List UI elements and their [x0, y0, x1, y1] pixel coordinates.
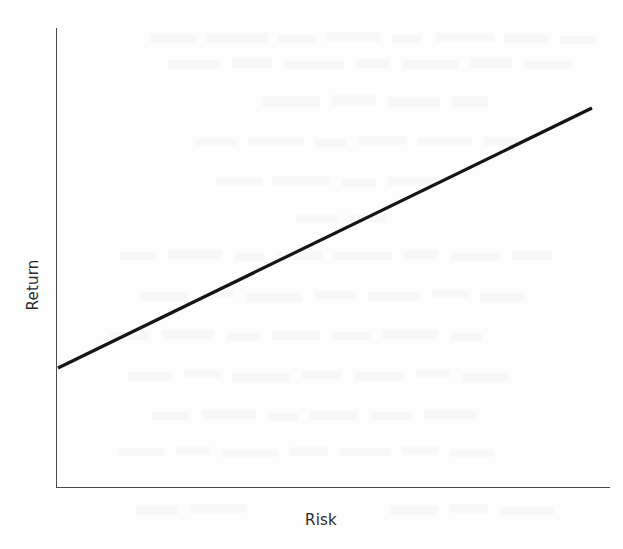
risk-return-chart: Return Risk	[0, 0, 623, 549]
data-series-group	[58, 108, 592, 368]
plot-area: Return Risk	[0, 0, 623, 549]
y-axis-label: Return	[24, 260, 42, 311]
axes-group	[56, 28, 610, 488]
x-axis-label: Risk	[305, 511, 337, 529]
risk-return-line	[58, 108, 592, 368]
